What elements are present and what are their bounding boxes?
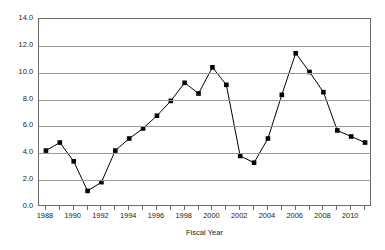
data-point xyxy=(182,80,187,85)
x-tick xyxy=(142,206,143,210)
x-tick xyxy=(73,206,74,210)
x-axis-title: Fiscal Year xyxy=(38,228,371,238)
data-point xyxy=(155,113,160,118)
y-tick-label: 4.0 xyxy=(0,148,33,155)
data-point xyxy=(252,160,257,165)
data-point xyxy=(363,140,368,145)
y-tick-label: 14.0 xyxy=(0,14,33,21)
x-tick xyxy=(364,206,365,210)
x-tick xyxy=(350,206,351,210)
x-tick-label: 2010 xyxy=(330,211,370,220)
gridline xyxy=(39,73,370,74)
y-tick-label: 2.0 xyxy=(0,175,33,182)
data-point xyxy=(266,136,271,141)
gridline xyxy=(39,46,370,47)
series-layer xyxy=(39,19,372,207)
series-line xyxy=(46,53,365,191)
x-tick xyxy=(45,206,46,210)
x-tick xyxy=(100,206,101,210)
gridline xyxy=(39,153,370,154)
line-chart: 0.02.04.06.08.010.012.014.0 198819901992… xyxy=(0,0,385,250)
data-point xyxy=(85,189,90,194)
x-tick xyxy=(128,206,129,210)
data-point xyxy=(44,148,49,153)
data-point xyxy=(113,148,118,153)
gridline xyxy=(39,126,370,127)
data-point xyxy=(210,65,215,70)
y-tick-label: 10.0 xyxy=(0,68,33,75)
x-tick xyxy=(156,206,157,210)
x-tick xyxy=(336,206,337,210)
y-tick-label: 0.0 xyxy=(0,202,33,209)
x-tick xyxy=(295,206,296,210)
data-point xyxy=(238,154,243,159)
x-tick xyxy=(59,206,60,210)
y-tick-label: 8.0 xyxy=(0,95,33,102)
x-tick xyxy=(322,206,323,210)
x-tick xyxy=(281,206,282,210)
x-tick xyxy=(198,206,199,210)
data-point xyxy=(349,134,354,139)
x-tick xyxy=(239,206,240,210)
x-tick xyxy=(211,206,212,210)
x-tick xyxy=(114,206,115,210)
data-point xyxy=(293,51,298,56)
x-tick xyxy=(87,206,88,210)
gridline xyxy=(39,180,370,181)
gridline xyxy=(39,100,370,101)
data-point xyxy=(335,128,340,133)
x-tick xyxy=(184,206,185,210)
data-point xyxy=(71,159,76,164)
data-point xyxy=(196,91,201,96)
x-tick xyxy=(309,206,310,210)
y-tick-label: 6.0 xyxy=(0,121,33,128)
data-point xyxy=(280,93,285,98)
x-tick xyxy=(225,206,226,210)
x-tick xyxy=(170,206,171,210)
data-point xyxy=(321,90,326,95)
data-point xyxy=(224,83,229,88)
plot-area xyxy=(38,18,371,206)
x-tick xyxy=(253,206,254,210)
x-axis: 1988199019921994199619982000200220042006… xyxy=(0,211,385,223)
x-tick xyxy=(267,206,268,210)
y-tick-label: 12.0 xyxy=(0,41,33,48)
data-point xyxy=(58,140,63,145)
data-point xyxy=(127,136,132,141)
